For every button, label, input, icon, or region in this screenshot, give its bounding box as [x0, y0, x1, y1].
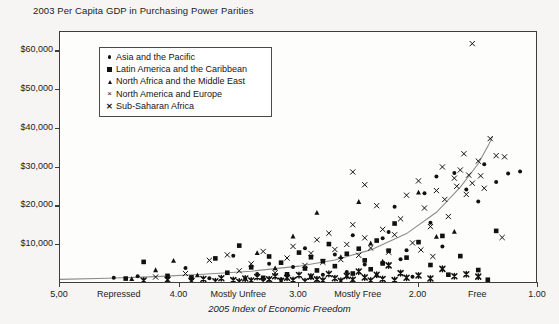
- y-tick-label: $10,000: [5, 238, 53, 248]
- legend-item-label: Sub-Saharan Africa: [116, 102, 194, 111]
- y-tick-label: $30,000: [5, 161, 53, 171]
- x-tick-label: Mostly Unfree: [210, 289, 266, 299]
- x-tick-label: 4.00: [170, 289, 188, 299]
- chart-page: 2003 Per Capita GDP in Purchasing Power …: [0, 0, 559, 324]
- legend-item-star: ✕Sub-Saharan Africa: [104, 101, 266, 113]
- x-tick-label: Repressed: [97, 289, 141, 299]
- x-tick-mark: [179, 282, 180, 287]
- y-tick-mark: [55, 205, 60, 206]
- page-title: 2003 Per Capita GDP in Purchasing Power …: [33, 5, 254, 16]
- legend-item-label: North Africa and the Middle East: [116, 77, 245, 86]
- y-tick-label: $20,000: [5, 199, 53, 209]
- legend-item-triangle: North Africa and the Middle East: [104, 76, 266, 88]
- x-tick-label: Free: [468, 289, 487, 299]
- x-tick-label: 2.00: [409, 289, 427, 299]
- star-marker-icon: ✕: [104, 101, 115, 112]
- legend-item-label: Latin America and the Caribbean: [116, 65, 247, 74]
- trendline: [60, 137, 493, 280]
- y-tick-mark: [55, 89, 60, 90]
- y-tick-label: $40,000: [5, 122, 53, 132]
- y-tick-mark: [55, 128, 60, 129]
- x-tick-mark: [298, 282, 299, 287]
- triangle-marker-icon: [104, 76, 115, 87]
- y-tick-label: $50,000: [5, 83, 53, 93]
- legend-item-label: Asia and the Pacific: [116, 53, 195, 62]
- legend-item-dot: Asia and the Pacific: [104, 51, 266, 63]
- series-1: [123, 221, 498, 282]
- legend: Asia and the PacificLatin America and th…: [99, 47, 272, 117]
- square-marker-icon: [104, 64, 115, 75]
- x-axis-title: 2005 Index of Economic Freedom: [0, 303, 559, 314]
- dot-marker-icon: [104, 52, 115, 63]
- x-tick-label: 3.00: [289, 289, 307, 299]
- x-tick-mark: [418, 282, 419, 287]
- x-tick-mark: [59, 282, 60, 287]
- legend-item-square: Latin America and the Caribbean: [104, 63, 266, 75]
- legend-item-x: ×North America and Europe: [104, 88, 266, 100]
- x-marker-icon: ×: [104, 89, 115, 100]
- x-tick-label: 1.00: [528, 289, 546, 299]
- x-tick-mark: [537, 282, 538, 287]
- y-tick-mark: [55, 167, 60, 168]
- y-tick-mark: [55, 244, 60, 245]
- legend-item-label: North America and Europe: [116, 90, 222, 99]
- y-tick-label: $60,000: [5, 44, 53, 54]
- y-tick-mark: [55, 50, 60, 51]
- x-tick-label: Mostly Free: [334, 289, 381, 299]
- x-tick-label: 5,00: [50, 289, 68, 299]
